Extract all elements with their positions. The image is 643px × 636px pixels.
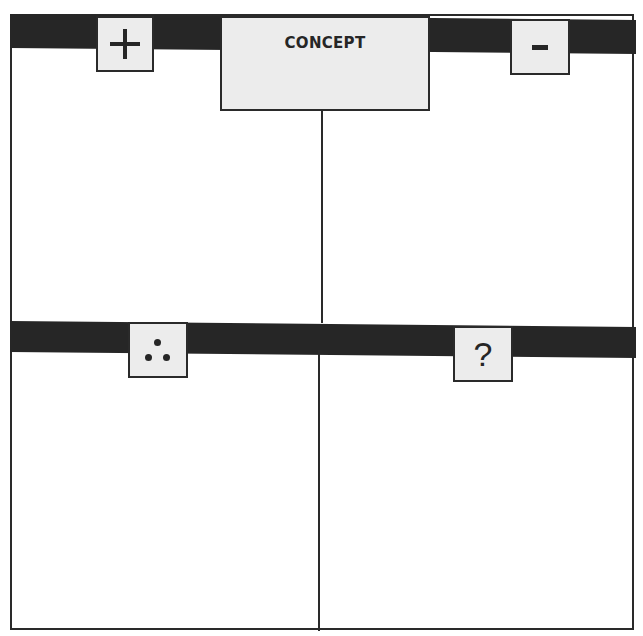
top-vertical-divider [321,110,323,323]
question-quadrant-label: ? [453,326,513,382]
middle-header-bar [10,321,636,358]
concept-title: CONCEPT [285,34,366,52]
question-icon: ? [474,337,493,371]
plus-quadrant-label [96,16,154,72]
bottom-vertical-divider [318,350,320,631]
plus-icon [110,29,140,59]
minus-quadrant-label [510,19,570,75]
therefore-icon [144,337,172,363]
concept-box: CONCEPT [220,16,430,111]
minus-icon [532,45,548,50]
therefore-quadrant-label [128,322,188,378]
